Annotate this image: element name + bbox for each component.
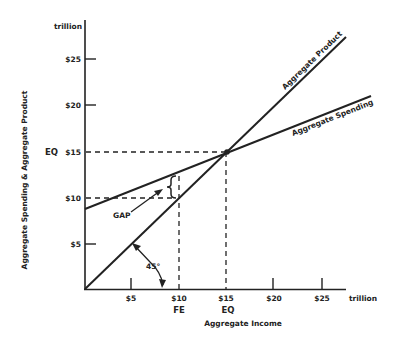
angle-arrowhead-bottom-icon [159,279,166,288]
aggregate-product-label: Aggregate Product [280,29,344,91]
x-axis-title: Aggregate Income [204,319,282,328]
x-tick-15: $15 [218,294,234,303]
angle-label: 45° [146,262,160,271]
y-tick-20: $20 [65,101,81,110]
x-unit-label: trillion [349,294,377,303]
y-tick-15: $15 [65,148,81,157]
aggregate-spending-label: Aggregate Spending [290,98,374,138]
x-fe-label: FE [173,305,185,315]
x-tick-20: $20 [266,294,282,303]
x-tick-5: $5 [126,294,136,303]
equilibrium-point [224,149,230,155]
y-tick-10: $10 [65,194,81,203]
aggregate-product-line [85,37,346,289]
y-tick-5: $5 [71,240,81,249]
gap-arrow [131,191,160,212]
gap-bracket [167,176,176,198]
income-expenditure-diagram: trillion $25 $20 $15 $10 $5 EQ $5 $10 $1… [0,0,400,341]
y-eq-label: EQ [45,147,58,157]
y-unit-label: trillion [54,22,82,31]
angle-arrowhead-top-icon [132,243,141,251]
x-tick-10: $10 [171,294,187,303]
y-axis-title: Aggregate Spending & Aggregate Product [20,90,29,269]
x-tick-25: $25 [314,294,330,303]
x-eq-label: EQ [221,305,234,315]
y-tick-25: $25 [65,55,81,64]
gap-label: GAP [113,211,131,220]
